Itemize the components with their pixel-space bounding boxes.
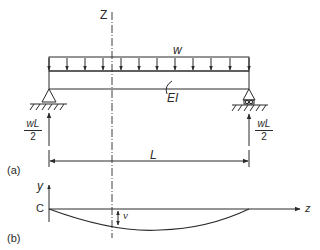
right-reaction-label: wL 2 — [255, 119, 273, 142]
span-label: L — [150, 149, 157, 161]
panel-b-label: (b) — [7, 233, 20, 244]
z-axis-label: z — [305, 203, 311, 214]
right-roller-support — [232, 89, 268, 111]
left-reaction-label: wL 2 — [24, 119, 42, 142]
z-centerline-label: Z — [100, 9, 107, 21]
y-axis-label: y — [37, 180, 43, 192]
stiffness-label: EI — [167, 92, 178, 104]
load-label: w — [173, 44, 182, 56]
load-arrows — [49, 58, 249, 70]
span-dimension — [49, 150, 249, 167]
deflection-label: v — [123, 210, 128, 221]
deflection-curve — [49, 209, 249, 230]
distributed-load-block — [49, 57, 249, 71]
panel-a-label: (a) — [7, 165, 20, 176]
beam — [49, 71, 249, 89]
left-pin-support — [30, 89, 67, 110]
origin-label: C — [36, 203, 44, 214]
